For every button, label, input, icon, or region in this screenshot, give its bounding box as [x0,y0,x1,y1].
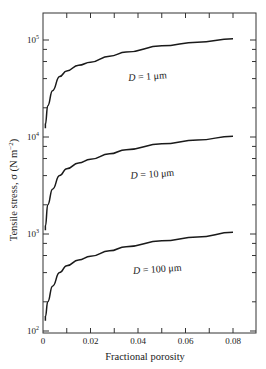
tensile-stress-vs-porosity-chart: 00.020.040.060.08102103104105 D = 1 μmD … [0,0,266,369]
y-tick-label: 103 [27,228,39,239]
series-curve [45,136,233,230]
series-label: D = 10 μm [129,167,174,181]
curve-annotations: D = 1 μmD = 10 μmD = 100 μm [127,69,182,276]
x-axis-label: Fractional porosity [105,351,185,362]
series-label: D = 1 μm [127,69,167,83]
y-axis-label: Tensile stress, σ (N m−2) [7,138,20,241]
x-tick-label: 0.08 [225,336,241,346]
series-curve [45,39,233,129]
y-tick-label: 104 [27,131,39,142]
x-tick-label: 0.04 [130,336,146,346]
series-label: D = 100 μm [132,262,182,276]
series-curve [45,232,233,320]
x-tick-label: 0.06 [178,336,194,346]
y-tick-label: 102 [27,325,39,336]
x-tick-label: 0.02 [83,336,99,346]
y-tick-label: 105 [27,34,39,45]
x-tick-label: 0 [41,336,46,346]
